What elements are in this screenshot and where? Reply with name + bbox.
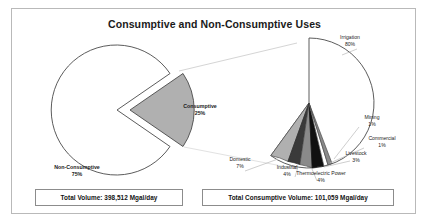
chart-panel: Consumptive and Non-Consumptive Uses: [11, 8, 416, 214]
label-commercial: Commercial 1%: [350, 135, 414, 148]
figure-root: Consumptive and Non-Consumptive Uses: [0, 0, 427, 224]
total-consumptive-volume-box: Total Consumptive Volume: 101,059 Mgal/d…: [202, 189, 394, 206]
total-volume-box: Total Volume: 398,512 Mgal/day: [35, 189, 183, 206]
label-mining: Mining 1%: [349, 114, 395, 127]
label-domestic: Domestic 7%: [216, 156, 264, 169]
label-consumptive: Consumptive 25%: [160, 103, 240, 117]
label-industrial: Industrial 4%: [264, 164, 310, 177]
label-livestock: Livestock 3%: [332, 150, 380, 163]
right-pie-chart: [271, 38, 374, 168]
label-irrigation: Irrigation 80%: [317, 34, 383, 47]
label-non-consumptive: Non-Consumptive 75%: [22, 164, 132, 178]
